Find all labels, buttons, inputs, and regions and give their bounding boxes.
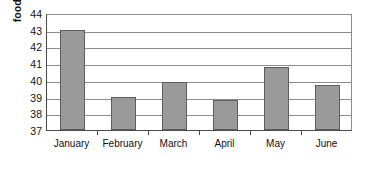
x-axis-tick	[148, 131, 149, 135]
bar-chart: food cost % 3738394041424344 JanuaryFebr…	[0, 0, 371, 174]
x-axis-tick	[97, 131, 98, 135]
x-axis-tick-labels: JanuaryFebruaryMarchAprilMayJune	[46, 136, 352, 154]
bar-slot	[302, 15, 353, 130]
plot-area	[46, 14, 352, 131]
bar-slot	[47, 15, 98, 130]
x-axis-tick	[301, 131, 302, 135]
x-axis-tick-label: May	[250, 136, 301, 152]
bar-slot	[200, 15, 251, 130]
x-axis-tick-label: June	[301, 136, 352, 152]
x-axis-tick	[199, 131, 200, 135]
y-axis-tick-label: 43	[16, 25, 42, 37]
bar[interactable]	[315, 85, 340, 130]
y-axis-tick-label: 41	[16, 58, 42, 70]
y-axis-tick-label: 37	[16, 125, 42, 137]
bar-slot	[149, 15, 200, 130]
y-axis-tick-label: 39	[16, 92, 42, 104]
x-axis-tick-label: February	[97, 136, 148, 152]
bar[interactable]	[60, 30, 85, 130]
x-axis-tick	[250, 131, 251, 135]
bar[interactable]	[264, 67, 289, 131]
y-axis-tick-label: 42	[16, 41, 42, 53]
bar[interactable]	[213, 100, 238, 130]
y-axis-tick-label: 44	[16, 8, 42, 20]
bar[interactable]	[111, 97, 136, 130]
x-axis-tick-label: April	[199, 136, 250, 152]
bar-slot	[98, 15, 149, 130]
y-axis-tick-label: 38	[16, 108, 42, 120]
bar-slot	[251, 15, 302, 130]
x-axis-tick-label: January	[46, 136, 97, 152]
y-axis-tick-label: 40	[16, 75, 42, 87]
bars	[47, 15, 351, 130]
x-axis-tick-label: March	[148, 136, 199, 152]
y-axis-tick-labels: 3738394041424344	[14, 0, 42, 174]
bar[interactable]	[162, 82, 187, 130]
